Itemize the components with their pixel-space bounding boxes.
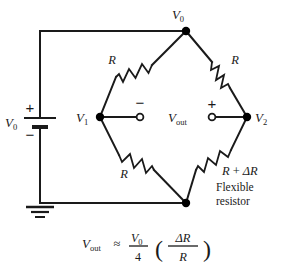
circuit-diagram-figure: V0 V1 V2 V0 + − − + Vout R R R R+ΔR	[0, 0, 299, 270]
resistor-label-top-right: R	[230, 53, 239, 67]
wire-arm-bottom-right-b	[186, 170, 196, 203]
node-dot-v2	[243, 113, 251, 121]
resistor-label-top-left: R	[107, 53, 116, 67]
node-label-v2: V2	[255, 110, 267, 127]
wire-arm-bottom-left-a	[100, 117, 119, 155]
output-terminal-positive-icon[interactable]	[209, 114, 216, 121]
formula-inner-numerator: ΔR	[175, 231, 191, 245]
wire-arm-top-right-a	[186, 31, 212, 62]
vout-label-sub: out	[176, 117, 188, 127]
wire-arm-top-left-b	[100, 77, 116, 117]
node-dot-v1	[96, 113, 104, 121]
formula-fraction-denominator: 4	[135, 250, 141, 264]
node-label-v1-sub: 1	[84, 117, 88, 127]
formula-lhs: Vout	[82, 236, 101, 253]
battery-minus-sign: −	[26, 126, 35, 143]
circuit-svg: V0 V1 V2 V0 + − − + Vout R R R R+ΔR	[0, 0, 299, 270]
formula-expression: Vout ≈ V0 4 ( ) ΔR R	[82, 231, 211, 264]
flexible-caption-line2: resistor	[216, 195, 250, 207]
node-dot-bottom	[182, 199, 190, 207]
battery-plus-sign: +	[26, 99, 35, 116]
output-plus-sign: +	[208, 95, 217, 112]
vout-label: Vout	[168, 110, 187, 127]
wire-arm-top-right-b	[230, 88, 247, 117]
wire-arm-bottom-right-a	[231, 117, 247, 150]
resistor-label-flexible: R+ΔR	[221, 164, 258, 178]
node-label-v2-sub: 2	[263, 117, 267, 127]
node-label-v0: V0	[172, 7, 184, 24]
flexible-delta-r: ΔR	[242, 164, 258, 178]
ground-symbol	[26, 207, 54, 217]
formula-inner-denominator: R	[178, 250, 187, 264]
source-label-sub: 0	[13, 122, 17, 132]
node-dot-v0	[182, 27, 190, 35]
output-terminal-negative-icon[interactable]	[137, 114, 144, 121]
flexible-r: R	[221, 164, 230, 178]
flexible-caption-line1: Flexible	[216, 181, 254, 193]
formula-paren-close: )	[203, 236, 211, 262]
formula-fraction-numerator: V0	[131, 231, 143, 247]
flexible-plus: +	[233, 164, 240, 178]
source-label-v0: V0	[5, 115, 17, 132]
wire-arm-top-left-a	[152, 31, 186, 65]
formula-approx: ≈	[114, 237, 121, 251]
node-label-v1: V1	[76, 110, 88, 127]
node-label-v0-sub: 0	[180, 14, 184, 24]
resistor-label-bottom-left: R	[119, 167, 128, 181]
resistor-top-left-zigzag	[116, 64, 152, 82]
output-minus-sign: −	[136, 94, 145, 111]
wire-arm-bottom-left-b	[154, 170, 186, 203]
formula-lhs-sub: out	[90, 243, 102, 253]
resistor-top-right-zigzag	[211, 62, 230, 88]
formula-paren-open: (	[155, 236, 163, 262]
